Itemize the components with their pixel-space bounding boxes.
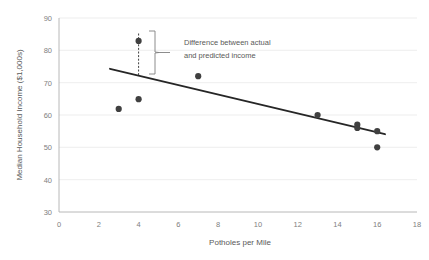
data-point — [116, 106, 122, 112]
y-tick-label: 50 — [44, 143, 52, 152]
y-tick-label: 80 — [44, 46, 52, 55]
data-point — [195, 73, 201, 79]
y-tick-label: 70 — [44, 79, 52, 88]
x-tick-label: 2 — [97, 220, 101, 229]
x-tick-label: 10 — [254, 220, 262, 229]
y-tick-label: 90 — [44, 14, 52, 23]
x-tick-label: 18 — [413, 220, 421, 229]
data-point — [136, 38, 142, 44]
chart-canvas: 90 80 70 60 50 40 30 0 2 4 6 8 10 12 14 … — [0, 0, 429, 260]
data-point — [374, 128, 380, 134]
annotation-line-2: and predicted income — [184, 51, 256, 60]
y-tick-label: 60 — [44, 111, 52, 120]
scatter-chart: 90 80 70 60 50 40 30 0 2 4 6 8 10 12 14 … — [0, 0, 429, 260]
x-tick-label: 6 — [176, 220, 180, 229]
x-tick-label: 16 — [373, 220, 381, 229]
data-point — [136, 96, 142, 102]
x-tick-label: 0 — [57, 220, 61, 229]
y-tick-label: 30 — [44, 208, 52, 217]
x-axis-title: Potholes per Mile — [209, 238, 271, 247]
y-tick-label: 40 — [44, 176, 52, 185]
x-tick-label: 14 — [333, 220, 341, 229]
data-point — [374, 144, 380, 150]
y-axis-title: Median Household Income ($1,000s) — [15, 49, 24, 181]
x-tick-label: 4 — [137, 220, 141, 229]
data-point — [354, 125, 360, 131]
data-point — [315, 112, 321, 118]
annotation-line-1: Difference between actual — [184, 38, 271, 47]
x-tick-label: 8 — [216, 220, 220, 229]
x-tick-label: 12 — [294, 220, 302, 229]
